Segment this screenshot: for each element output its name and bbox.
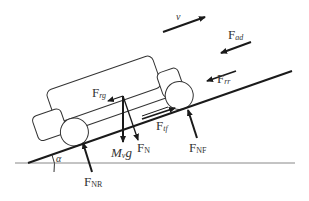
weight-label: Mvg [110,145,132,160]
aero-drag-label: Fad [228,27,244,42]
vehicle-force-diagram: α v Fad Frr Ftf Frg Mvg FN FNF FNR [0,0,309,201]
velocity-arrow [163,17,205,32]
car-body [25,46,197,157]
tractive-force-label: Ftf [156,118,169,133]
velocity-label: v [176,11,181,22]
aero-drag-arrow [221,42,251,53]
normal-component-arrow [123,96,138,140]
angle-label: α [56,153,62,164]
normal-front-label: FNF [189,140,207,155]
normal-rear-arrow [83,143,92,172]
normal-front-arrow [188,110,197,138]
normal-rear-label: FNR [84,174,103,189]
normal-label: FN [137,140,150,155]
